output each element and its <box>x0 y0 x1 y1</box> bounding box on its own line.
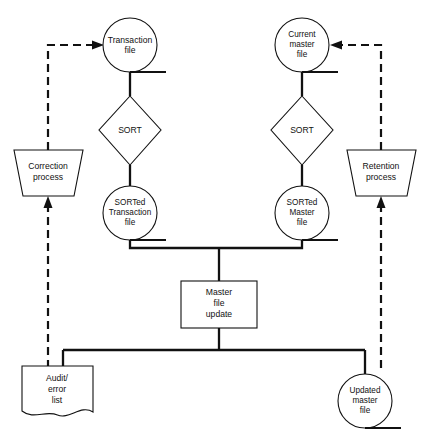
node-sorted-transaction-file[interactable]: SORTed Transaction file <box>103 186 166 240</box>
arrow-head-icon <box>92 41 104 50</box>
connector-updated-master-file-to-retention-process <box>377 196 386 368</box>
connector-audit-error-list-to-correction-process <box>44 196 53 368</box>
node-label: Master <box>289 208 314 217</box>
connector-sorted-transaction-to-bus <box>130 240 219 248</box>
node-transaction-file[interactable]: Transaction file <box>103 18 166 72</box>
node-label: Audit/ <box>46 373 69 383</box>
node-sorted-master-file[interactable]: SORTed Master file <box>275 186 338 240</box>
node-updated-master-file[interactable]: Updated master file <box>338 374 401 428</box>
node-audit-error-list[interactable]: Audit/ error list <box>22 366 93 416</box>
node-label: file <box>125 218 136 227</box>
node-label: file <box>125 45 136 55</box>
node-label: SORT <box>290 125 314 135</box>
flowchart-canvas: Transaction file SORT SORTed Transaction… <box>0 0 430 440</box>
node-label: file <box>297 50 308 59</box>
node-label: file <box>214 298 225 308</box>
node-label: Retention <box>363 161 400 171</box>
arrow-head-icon <box>377 196 386 208</box>
node-label: list <box>52 395 63 405</box>
node-label: master <box>352 396 377 405</box>
node-sort-left[interactable]: SORT <box>99 96 161 165</box>
node-label: SORTed <box>287 198 318 207</box>
node-correction-process[interactable]: Correction process <box>14 150 83 196</box>
node-master-file-update[interactable]: Master file update <box>181 281 257 328</box>
arrow-head-icon <box>330 41 342 50</box>
node-label: master <box>289 40 314 49</box>
node-label: Correction <box>28 161 68 171</box>
node-label: SORTed <box>115 198 146 207</box>
node-label: error <box>48 384 66 394</box>
node-current-master-file[interactable]: Current master file <box>275 18 338 72</box>
node-label: SORT <box>118 125 142 135</box>
node-label: Transaction <box>108 35 153 45</box>
arrow-head-icon <box>44 196 53 208</box>
flowchart-svg: Transaction file SORT SORTed Transaction… <box>0 0 430 440</box>
node-label: process <box>366 172 396 182</box>
node-label: update <box>206 309 233 319</box>
node-label: file <box>360 406 371 415</box>
node-label: Updated <box>350 386 381 395</box>
connector-correction-process-to-transaction-file <box>48 41 104 151</box>
node-label: Master <box>206 287 232 297</box>
node-sort-right[interactable]: SORT <box>271 96 333 165</box>
node-retention-process[interactable]: Retention process <box>347 150 416 196</box>
node-label: process <box>33 172 63 182</box>
connector-sorted-master-to-bus <box>219 240 302 248</box>
node-label: file <box>297 218 308 227</box>
connector-retention-process-to-current-master-file <box>330 41 381 151</box>
node-label: Transaction <box>109 208 152 217</box>
node-label: Current <box>288 30 316 39</box>
